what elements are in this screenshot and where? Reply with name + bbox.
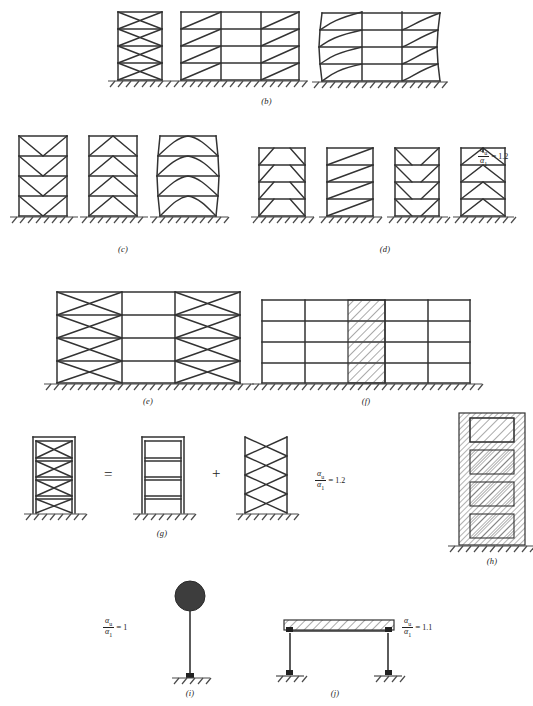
wall-opening-2 [470,450,514,474]
panel-e-structures [44,292,254,390]
ground-hatch-h [448,546,533,552]
panel-label-d: (d) [345,244,425,254]
structure-inverted-pendulum [172,581,211,684]
ground-hatch-b2 [172,81,308,87]
panel-label-f: (f) [326,396,406,406]
base-node-right [385,670,392,675]
structure-x-braced-single-bay [108,12,172,87]
ground-hatch-g1 [24,514,87,520]
concentrated-mass [175,581,205,611]
ground-hatch-d4 [453,217,516,223]
ground-hatch-f [252,384,483,390]
structure-portal-frame-with-slab [276,620,405,682]
structure-moment-frame [133,437,196,520]
ground-hatch-d1 [251,217,314,223]
panel-label-i: (i) [150,688,230,698]
equals-sign-j: = [415,622,420,632]
structure-x-braced-three-bay-deformed [312,12,448,88]
structure-eccentric-diagonal [251,148,314,223]
equals-sign-g: = [328,475,333,485]
alpha-u-numerator-i: αu [103,617,114,627]
panel-label-b: (b) [0,96,533,106]
ground-hatch-g2 [133,514,196,520]
ground-hatch-g3 [236,514,299,520]
ratio-formula-d: αu α1 = 1.2 [478,146,508,166]
ratio-formula-j: αu α1 = 1.1 [402,617,432,637]
structure-v-braced-deformed [150,136,229,223]
equals-sign-d: = [491,151,496,161]
wall-opening-3 [470,482,514,506]
panel-label-e: (e) [108,396,188,406]
ground-hatch-c2 [80,217,148,223]
structure-eccentric-single-diagonal [319,148,382,223]
panel-b-structures [108,12,448,88]
structure-v-braced [10,136,78,223]
ground-hatch-b3 [312,82,448,88]
alpha-u-numerator-d: αu [478,146,489,156]
rigid-slab [284,620,394,630]
panel-c-structures [10,136,229,223]
alpha-ratio-fraction-d: αu α1 [478,146,489,166]
panel-h-structures [448,413,533,552]
structure-x-braced-three-bay-diagonal [172,12,308,87]
alpha-ratio-fraction-g: αu α1 [315,470,326,490]
panel-label-g: (g) [122,528,202,538]
wall-opening-4 [470,514,514,538]
ratio-formula-g: αu α1 = 1.2 [315,470,345,490]
structure-x-braced-outer-bays [44,292,254,390]
panel-j-structures [276,620,405,682]
ground-hatch-e [44,384,254,390]
panel-i-structures [172,581,211,684]
ground-hatch-i [172,678,211,684]
plus-operator-g: + [212,466,220,481]
structure-dual-braced-frame [24,437,87,520]
ratio-value-d: 1.2 [498,152,508,161]
structure-eccentric-v [387,148,450,223]
panel-label-h: (h) [452,556,532,566]
joint-node-left [286,627,293,632]
alpha-1-denominator-d: α1 [478,156,489,167]
alpha-u-numerator-g: αu [315,470,326,480]
panel-label-j: (j) [295,688,375,698]
structure-inverted-v-braced [80,136,148,223]
alpha-1-denominator-j: α1 [402,627,413,638]
structure-coupled-shear-wall [448,413,533,552]
ground-hatch-j-right [374,676,405,682]
ratio-value-j: 1.1 [422,623,432,632]
equals-sign-i: = [116,622,121,632]
ground-hatch-b1 [108,81,172,87]
alpha-ratio-fraction-j: αu α1 [402,617,413,637]
panel-f-structures [252,300,483,390]
joint-node-right [385,627,392,632]
ground-hatch-d2 [319,217,382,223]
alpha-u-numerator-j: αu [402,617,413,627]
ratio-value-i: 1 [123,623,127,632]
ground-hatch-c3 [150,217,229,223]
shear-wall-panel [348,300,385,383]
panel-g-structures [24,437,299,520]
panel-d-structures [251,148,516,223]
ground-hatch-d3 [387,217,450,223]
structure-bracing-system [236,437,299,520]
structure-frame-with-central-shear-wall [252,300,483,390]
alpha-1-denominator-g: α1 [315,480,326,491]
ground-hatch-j-left [276,676,307,682]
figure-root: (b) (c) (d) (e) (f) (g) (h) (i) (j) αu α… [0,0,533,706]
panel-label-c: (c) [83,244,163,254]
alpha-1-denominator-i: α1 [103,627,114,638]
equals-operator-g: = [104,467,112,482]
ground-hatch-c1 [10,217,78,223]
base-node-left [286,670,293,675]
ratio-formula-i: αu α1 = 1 [103,617,127,637]
alpha-ratio-fraction-i: αu α1 [103,617,114,637]
ratio-value-g: 1.2 [335,476,345,485]
base-node [186,673,194,678]
